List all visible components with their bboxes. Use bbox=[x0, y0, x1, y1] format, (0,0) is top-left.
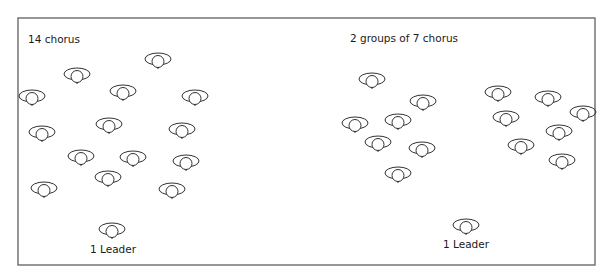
facing-pointer-icon bbox=[181, 137, 184, 139]
facing-pointer-icon bbox=[76, 82, 79, 84]
head-circle-icon bbox=[366, 76, 378, 88]
chorus-member-figure bbox=[409, 142, 435, 158]
left-panel-title: 14 chorus bbox=[28, 33, 80, 45]
facing-pointer-icon bbox=[397, 181, 400, 183]
chorus-member-figure bbox=[359, 73, 385, 89]
chorus-member-figure bbox=[159, 183, 185, 199]
facing-pointer-icon bbox=[497, 100, 500, 102]
facing-pointer-icon bbox=[171, 197, 174, 199]
chorus-member-figure bbox=[19, 90, 45, 106]
head-circle-icon bbox=[71, 71, 83, 83]
facing-pointer-icon bbox=[377, 150, 380, 152]
chorus-member-figure bbox=[549, 154, 575, 170]
chorus-member-figure bbox=[546, 125, 572, 141]
chorus-member-figure bbox=[169, 123, 195, 139]
facing-pointer-icon bbox=[107, 185, 110, 187]
facing-pointer-icon bbox=[371, 87, 374, 89]
head-circle-icon bbox=[416, 145, 428, 157]
chorus-member-figure bbox=[68, 150, 94, 166]
staging-diagram: 14 chorus 1 Leader 2 groups of 7 chorus … bbox=[0, 0, 610, 278]
head-circle-icon bbox=[515, 142, 527, 154]
head-circle-icon bbox=[26, 93, 38, 105]
head-circle-icon bbox=[577, 109, 589, 121]
facing-pointer-icon bbox=[80, 164, 83, 166]
right-leader-label: 1 Leader bbox=[443, 238, 490, 250]
chorus-member-figure bbox=[508, 139, 534, 155]
head-circle-icon bbox=[460, 222, 472, 234]
facing-pointer-icon bbox=[111, 237, 114, 239]
head-circle-icon bbox=[75, 153, 87, 165]
facing-pointer-icon bbox=[31, 104, 34, 106]
facing-pointer-icon bbox=[157, 67, 160, 69]
facing-pointer-icon bbox=[547, 105, 550, 107]
left-leader-figure bbox=[99, 223, 125, 239]
facing-pointer-icon bbox=[122, 99, 125, 101]
leader-figure bbox=[453, 219, 479, 235]
right-panel: 2 groups of 7 chorus 1 Leader bbox=[342, 32, 596, 250]
head-circle-icon bbox=[349, 120, 361, 132]
chorus-member-figure bbox=[95, 171, 121, 187]
facing-pointer-icon bbox=[505, 125, 508, 127]
chorus-member-figure bbox=[29, 126, 55, 142]
chorus-member-figure bbox=[145, 53, 171, 69]
head-circle-icon bbox=[500, 114, 512, 126]
chorus-member-figure bbox=[485, 86, 511, 102]
facing-pointer-icon bbox=[582, 120, 585, 122]
facing-pointer-icon bbox=[397, 128, 400, 130]
head-circle-icon bbox=[166, 186, 178, 198]
head-circle-icon bbox=[492, 89, 504, 101]
head-circle-icon bbox=[392, 170, 404, 182]
facing-pointer-icon bbox=[185, 169, 188, 171]
facing-pointer-icon bbox=[108, 132, 111, 134]
facing-pointer-icon bbox=[421, 156, 424, 158]
head-circle-icon bbox=[36, 129, 48, 141]
facing-pointer-icon bbox=[41, 140, 44, 142]
facing-pointer-icon bbox=[132, 165, 135, 167]
chorus-member-figure bbox=[64, 68, 90, 84]
head-circle-icon bbox=[372, 139, 384, 151]
head-circle-icon bbox=[38, 185, 50, 197]
head-circle-icon bbox=[417, 98, 429, 110]
head-circle-icon bbox=[542, 94, 554, 106]
chorus-member-figure bbox=[493, 111, 519, 127]
chorus-member-figure bbox=[365, 136, 391, 152]
head-circle-icon bbox=[102, 174, 114, 186]
facing-pointer-icon bbox=[43, 196, 46, 198]
head-circle-icon bbox=[392, 117, 404, 129]
facing-pointer-icon bbox=[354, 131, 357, 133]
diagram-frame bbox=[18, 18, 595, 265]
facing-pointer-icon bbox=[561, 168, 564, 170]
head-circle-icon bbox=[189, 93, 201, 105]
chorus-member-figure bbox=[120, 151, 146, 167]
facing-pointer-icon bbox=[422, 109, 425, 111]
facing-pointer-icon bbox=[194, 104, 197, 106]
chorus-member-figure bbox=[410, 95, 436, 111]
right-leader-figure bbox=[453, 219, 479, 235]
head-circle-icon bbox=[553, 128, 565, 140]
facing-pointer-icon bbox=[520, 153, 523, 155]
head-circle-icon bbox=[127, 154, 139, 166]
facing-pointer-icon bbox=[558, 139, 561, 141]
chorus-member-figure bbox=[182, 90, 208, 106]
chorus-member-figure bbox=[570, 106, 596, 122]
left-leader-label: 1 Leader bbox=[90, 243, 137, 255]
head-circle-icon bbox=[106, 226, 118, 238]
head-circle-icon bbox=[180, 158, 192, 170]
head-circle-icon bbox=[556, 157, 568, 169]
right-panel-title: 2 groups of 7 chorus bbox=[350, 32, 458, 44]
chorus-member-figure bbox=[173, 155, 199, 171]
chorus-member-figure bbox=[96, 118, 122, 134]
chorus-member-figure bbox=[385, 167, 411, 183]
chorus-member-figure bbox=[342, 117, 368, 133]
chorus-member-figure bbox=[385, 114, 411, 130]
chorus-member-figure bbox=[535, 91, 561, 107]
facing-pointer-icon bbox=[465, 233, 468, 235]
head-circle-icon bbox=[176, 126, 188, 138]
left-panel: 14 chorus 1 Leader bbox=[19, 33, 208, 255]
head-circle-icon bbox=[152, 56, 164, 68]
chorus-member-figure bbox=[110, 85, 136, 101]
left-chorus-group bbox=[19, 53, 208, 199]
chorus-member-figure bbox=[31, 182, 57, 198]
right-chorus-group-2 bbox=[485, 86, 596, 170]
right-chorus-group-1 bbox=[342, 73, 436, 183]
